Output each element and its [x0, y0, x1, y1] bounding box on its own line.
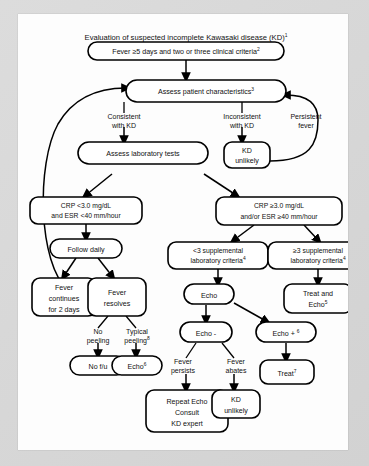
svg-text:Fever: Fever	[174, 358, 193, 365]
svg-text:Fever ≥5 days and two or three: Fever ≥5 days and two or three clinical …	[112, 47, 260, 56]
edge-label-no-peeling: No peeling	[87, 328, 110, 345]
svg-text:Follow daily: Follow daily	[67, 246, 105, 254]
svg-text:Persistent: Persistent	[290, 113, 321, 120]
svg-text:KD: KD	[242, 147, 252, 155]
edge-lab-to-crphigh	[204, 174, 236, 195]
edge-follow-to-resolves	[98, 258, 112, 276]
node-supplemental-lt3[interactable]: <3 supplemental laboratory criteria4	[168, 242, 268, 269]
figure-background: Evaluation of suspected incomplete Kawas…	[0, 0, 369, 466]
svg-text:Typical: Typical	[126, 328, 148, 336]
edge-label-persistent-fever: Persistent fever	[290, 113, 321, 129]
svg-text:Echo + 6: Echo + 6	[273, 329, 300, 338]
svg-text:Echo -: Echo -	[196, 330, 217, 338]
node-fever-resolves[interactable]: Fever resolves	[88, 278, 146, 316]
svg-text:Echo: Echo	[201, 292, 217, 300]
svg-text:No: No	[94, 328, 103, 335]
edge-crphigh-to-suppge3	[304, 225, 318, 240]
svg-text:continues: continues	[49, 295, 80, 303]
svg-text:Assess patient characteristics: Assess patient characteristics3	[158, 87, 254, 96]
edge-echoneg-abates-stem	[222, 343, 234, 358]
node-kd-unlikely-bottom[interactable]: KD unlikely	[212, 390, 260, 418]
svg-text:with KD: with KD	[229, 122, 254, 129]
node-kd-unlikely-top[interactable]: KD unlikely	[224, 142, 270, 168]
svg-text:resolves: resolves	[104, 300, 131, 308]
svg-text:Repeat Echo: Repeat Echo	[166, 398, 207, 406]
svg-text:and/or ESR ≥40 mm/hour: and/or ESR ≥40 mm/hour	[240, 213, 318, 220]
svg-text:for 2 days: for 2 days	[48, 306, 80, 314]
svg-text:and ESR <40 mm/hour: and ESR <40 mm/hour	[51, 212, 121, 219]
node-crp-low[interactable]: CRP <3.0 mg/dL and ESR <40 mm/hour	[30, 197, 142, 224]
edge-follow-to-continues	[64, 258, 76, 276]
svg-text:KD expert: KD expert	[171, 420, 203, 428]
svg-text:KD: KD	[231, 396, 241, 404]
edge-resolves-nopeel-stem	[98, 316, 108, 328]
svg-text:Fever: Fever	[55, 284, 74, 292]
svg-text:No f/u: No f/u	[89, 363, 108, 371]
node-assess-patient-characteristics[interactable]: Assess patient characteristics3	[126, 80, 286, 102]
svg-text:with KD: with KD	[111, 122, 136, 129]
svg-text:Fever: Fever	[108, 289, 127, 297]
svg-text:Assess laboratory tests: Assess laboratory tests	[106, 150, 180, 158]
svg-text:peeling8: peeling8	[124, 336, 150, 345]
svg-text:≥3 supplemental: ≥3 supplemental	[293, 247, 343, 255]
svg-text:Treat and: Treat and	[303, 290, 333, 298]
svg-text:Inconsistent: Inconsistent	[223, 113, 260, 120]
figure-title: Evaluation of suspected incomplete Kawas…	[85, 33, 288, 42]
node-echo[interactable]: Echo	[184, 284, 234, 304]
node-crp-high[interactable]: CRP ≥3.0 mg/dL and/or ESR ≥40 mm/hour	[216, 197, 342, 225]
svg-text:Consistent: Consistent	[107, 113, 140, 120]
node-assess-laboratory-tests[interactable]: Assess laboratory tests	[78, 142, 208, 164]
edge-label-inconsistent-with-kd: Inconsistent with KD	[223, 113, 260, 129]
node-follow-daily[interactable]: Follow daily	[50, 239, 122, 258]
node-supplemental-ge3[interactable]: ≥3 supplemental laboratory criteria4	[268, 242, 348, 269]
svg-text:laboratory criteria4: laboratory criteria4	[190, 256, 246, 265]
svg-text:abates: abates	[225, 367, 247, 374]
node-fever-5-days[interactable]: Fever ≥5 days and two or three clinical …	[88, 42, 284, 60]
edge-label-fever-persists: Fever persists	[171, 358, 196, 375]
node-echo-positive[interactable]: Echo + 6	[256, 322, 316, 342]
svg-text:Fever: Fever	[227, 358, 246, 365]
svg-text:CRP <3.0 mg/dL: CRP <3.0 mg/dL	[61, 202, 112, 210]
svg-text:unlikely: unlikely	[235, 157, 259, 165]
edge-echo-to-echopos	[234, 303, 266, 321]
svg-text:unlikely: unlikely	[224, 407, 248, 415]
svg-text:laboratory criteria4: laboratory criteria4	[290, 256, 346, 265]
node-treat-and-echo[interactable]: Treat and Echo5	[284, 284, 348, 313]
svg-text:fever: fever	[298, 122, 314, 129]
svg-text:Consult: Consult	[175, 409, 199, 417]
node-fever-continues[interactable]: Fever continues for 2 days	[32, 278, 96, 316]
node-echo-negative[interactable]: Echo -	[180, 322, 232, 342]
figure-card: Evaluation of suspected incomplete Kawas…	[18, 14, 348, 450]
node-treat[interactable]: Treat7	[260, 360, 314, 384]
svg-text:persists: persists	[171, 367, 196, 375]
node-echo-6[interactable]: Echo6	[112, 356, 162, 375]
edge-crphigh-to-supplt3	[234, 225, 254, 240]
edge-resolves-typpeel-stem	[126, 316, 136, 328]
flowchart-svg: Evaluation of suspected incomplete Kawas…	[18, 14, 348, 450]
svg-text:peeling: peeling	[87, 337, 110, 345]
svg-text:<3 supplemental: <3 supplemental	[193, 247, 244, 255]
svg-text:CRP ≥3.0 mg/dL: CRP ≥3.0 mg/dL	[254, 202, 304, 210]
edge-lab-to-crplow	[86, 174, 112, 195]
edge-label-typical-peeling: Typical peeling8	[124, 328, 150, 345]
edge-echoneg-persists-stem	[186, 343, 196, 358]
edge-label-fever-abates: Fever abates	[225, 358, 247, 374]
edge-label-consistent-with-kd: Consistent with KD	[107, 113, 140, 129]
